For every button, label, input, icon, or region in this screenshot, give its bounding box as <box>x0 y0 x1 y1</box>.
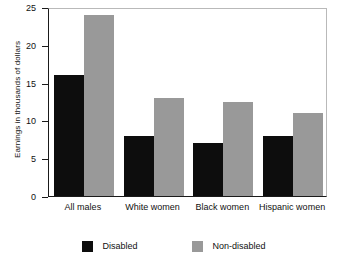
plot-area <box>48 8 327 197</box>
bar-disabled <box>124 136 154 196</box>
bars-layer <box>49 9 326 196</box>
x-axis-label: All males <box>65 202 102 213</box>
y-axis-tick-label: 0 <box>14 193 36 202</box>
x-axis-label: Black women <box>196 202 250 213</box>
x-axis-label: Hispanic women <box>259 202 325 213</box>
legend-label: Non-disabled <box>212 241 265 252</box>
chart-legend: DisabledNon-disabled <box>0 238 348 254</box>
y-axis-tick-labels: 0510152025 <box>14 0 36 262</box>
x-axis-category-labels: All malesWhite womenBlack womenHispanic … <box>48 202 327 216</box>
legend-swatch-icon <box>192 241 203 252</box>
y-axis-tick-label: 5 <box>14 155 36 164</box>
y-axis-tick-label: 25 <box>14 4 36 13</box>
y-axis-tick-label: 20 <box>14 41 36 50</box>
bar-disabled <box>54 75 84 196</box>
bar-chart: Earnings in thousands of dollars 0510152… <box>0 0 348 262</box>
x-axis-label: White women <box>125 202 180 213</box>
y-axis-tick-label: 15 <box>14 79 36 88</box>
legend-label: Disabled <box>102 241 137 252</box>
bar-disabled <box>263 136 293 196</box>
legend-entry: Disabled <box>82 241 137 252</box>
legend-entry: Non-disabled <box>192 241 265 252</box>
bar-non-disabled <box>84 15 114 196</box>
legend-swatch-icon <box>82 241 93 252</box>
bar-non-disabled <box>223 102 253 197</box>
bar-non-disabled <box>293 113 323 196</box>
bar-disabled <box>193 143 223 196</box>
y-axis-tick-mark <box>42 197 48 198</box>
y-axis-tick-label: 10 <box>14 117 36 126</box>
bar-non-disabled <box>154 98 184 196</box>
